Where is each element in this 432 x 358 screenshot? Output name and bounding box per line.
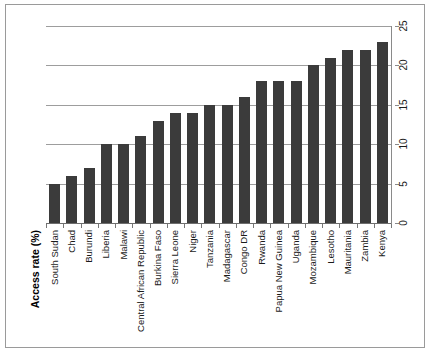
category-tick <box>115 224 132 228</box>
category-tick <box>46 224 63 228</box>
category-label-slot: Liberia <box>98 230 115 342</box>
category-tick <box>132 224 149 228</box>
bar[interactable] <box>118 144 129 223</box>
bar-slot <box>236 26 253 223</box>
bar-slot <box>63 26 80 223</box>
bar[interactable] <box>84 168 95 223</box>
category-label: Zambia <box>360 230 370 262</box>
category-label: Central African Republic <box>136 230 146 332</box>
category-label-slot: Burkina Faso <box>150 230 167 342</box>
bar[interactable] <box>135 136 146 223</box>
category-label: Uganda <box>291 230 301 263</box>
category-tick <box>357 224 374 228</box>
bar-series <box>46 26 391 223</box>
bar[interactable] <box>291 81 302 223</box>
bar[interactable] <box>170 113 181 223</box>
category-label: Lesotho <box>326 230 336 264</box>
category-tick <box>219 224 236 228</box>
bar[interactable] <box>66 176 77 223</box>
category-label: Mozambique <box>309 230 319 284</box>
category-tick <box>270 224 287 228</box>
bar-slot <box>322 26 339 223</box>
bar-slot <box>98 26 115 223</box>
bar[interactable] <box>273 81 284 223</box>
category-label-slot: Chad <box>63 230 80 342</box>
bar[interactable] <box>325 58 336 223</box>
category-tick <box>288 224 305 228</box>
category-tick <box>374 224 391 228</box>
bar[interactable] <box>49 184 60 223</box>
value-axis-label: 5 <box>399 181 409 187</box>
bar-slot <box>288 26 305 223</box>
category-label-slot: Niger <box>184 230 201 342</box>
bar[interactable] <box>153 121 164 223</box>
category-label: Sierra Leone <box>171 230 181 284</box>
category-label: Congo DR <box>240 230 250 274</box>
category-label: Mauritania <box>343 230 353 274</box>
category-label-slot: Uganda <box>288 230 305 342</box>
bar[interactable] <box>204 105 215 223</box>
category-tick <box>81 224 98 228</box>
category-label: Burundi <box>84 230 94 263</box>
category-tick <box>98 224 115 228</box>
category-label-slot: Central African Republic <box>132 230 149 342</box>
category-label-slot: Burundi <box>81 230 98 342</box>
category-label: Madagascar <box>222 230 232 282</box>
bar[interactable] <box>377 42 388 223</box>
bar[interactable] <box>308 65 319 223</box>
category-label-slot: Malawi <box>115 230 132 342</box>
category-tick <box>322 224 339 228</box>
category-label-slot: Zambia <box>357 230 374 342</box>
value-axis-label: 0 <box>399 220 409 226</box>
bar[interactable] <box>222 105 233 223</box>
bar-slot <box>270 26 287 223</box>
value-axis-label: 25 <box>399 20 409 31</box>
bar[interactable] <box>360 50 371 223</box>
bar-slot <box>201 26 218 223</box>
bar-slot <box>305 26 322 223</box>
category-label-slot: Madagascar <box>219 230 236 342</box>
value-axis-title: Access rate (%) <box>24 230 40 342</box>
category-label-slot: Sierra Leone <box>167 230 184 342</box>
bar-slot <box>150 26 167 223</box>
category-label-slot: Lesotho <box>322 230 339 342</box>
category-label-slot: Rwanda <box>253 230 270 342</box>
category-label: Rwanda <box>257 230 267 265</box>
bar-slot <box>219 26 236 223</box>
value-axis-labels: 0510152025 <box>395 26 421 224</box>
category-tick <box>236 224 253 228</box>
bar-slot <box>374 26 391 223</box>
bar[interactable] <box>239 97 250 223</box>
bar-slot <box>132 26 149 223</box>
category-label: Kenya <box>378 230 388 257</box>
bar-slot <box>184 26 201 223</box>
category-tick <box>201 224 218 228</box>
category-axis-labels: South SudanChadBurundiLiberiaMalawiCentr… <box>46 230 391 342</box>
bar[interactable] <box>187 113 198 223</box>
bar[interactable] <box>256 81 267 223</box>
bar-slot <box>167 26 184 223</box>
category-tick <box>150 224 167 228</box>
value-axis-label: 20 <box>399 60 409 71</box>
figure-frame: South SudanChadBurundiLiberiaMalawiCentr… <box>5 4 425 348</box>
category-tick <box>305 224 322 228</box>
category-tick <box>63 224 80 228</box>
bar[interactable] <box>342 50 353 223</box>
bar-slot <box>357 26 374 223</box>
category-label: Papua New Guinea <box>274 230 284 312</box>
category-tick <box>339 224 356 228</box>
category-label-slot: Kenya <box>374 230 391 342</box>
category-tick <box>184 224 201 228</box>
category-label: Niger <box>188 230 198 253</box>
bar-slot <box>81 26 98 223</box>
value-axis-label: 10 <box>399 139 409 150</box>
value-axis-title-text: Access rate (%) <box>30 230 41 308</box>
category-label-slot: Congo DR <box>236 230 253 342</box>
bar[interactable] <box>101 144 112 223</box>
category-axis-tick-end <box>391 224 392 228</box>
category-label: Burkina Faso <box>153 230 163 286</box>
category-tick <box>167 224 184 228</box>
category-label: Malawi <box>119 230 129 260</box>
category-label: Liberia <box>102 230 112 259</box>
bar-chart: South SudanChadBurundiLiberiaMalawiCentr… <box>6 5 426 349</box>
